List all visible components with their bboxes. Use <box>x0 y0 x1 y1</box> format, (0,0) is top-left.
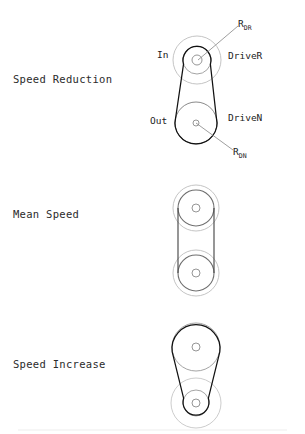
section-label-speed-reduction: Speed Reduction <box>13 73 112 85</box>
mean-bottom-hub-circle <box>192 269 200 277</box>
config-speed-reduction <box>173 26 238 150</box>
mean-top-flange-circle <box>173 185 219 231</box>
config-speed-increase <box>171 323 221 428</box>
mean-top-hub-circle <box>192 204 200 212</box>
driven-pulley-label: DriveN <box>228 112 262 123</box>
mean-top-belt-circle <box>178 190 214 226</box>
config-mean-speed <box>173 185 219 296</box>
driver-hub-circle <box>192 55 202 65</box>
section-label-speed-increase: Speed Increase <box>13 358 106 370</box>
increase-top-hub-circle <box>192 343 200 351</box>
mean-bottom-flange-circle <box>173 250 219 296</box>
driver-pulley-label: DriveR <box>228 50 262 61</box>
radius-driven-leader-line <box>196 123 233 150</box>
pulley-diagram-root: Speed Reduction Mean Speed Speed Increas… <box>0 0 305 434</box>
increase-bottom-flange-circle <box>171 378 221 428</box>
increase-bottom-hub-circle <box>192 399 200 407</box>
belt-path <box>175 46 217 144</box>
mean-bottom-belt-circle <box>178 255 214 291</box>
increase-top-pulley-circle <box>172 323 220 371</box>
output-label: Out <box>150 115 167 126</box>
increase-belt-path <box>172 325 220 415</box>
radius-driver-subscript: DR <box>244 24 252 32</box>
radius-driven-subscript: DN <box>239 152 247 160</box>
input-label: In <box>157 49 168 60</box>
driver-flange-circle <box>173 36 221 84</box>
radius-driver-label: RDR <box>238 18 252 32</box>
radius-driven-label: RDN <box>233 146 247 160</box>
section-label-mean-speed: Mean Speed <box>13 208 79 220</box>
